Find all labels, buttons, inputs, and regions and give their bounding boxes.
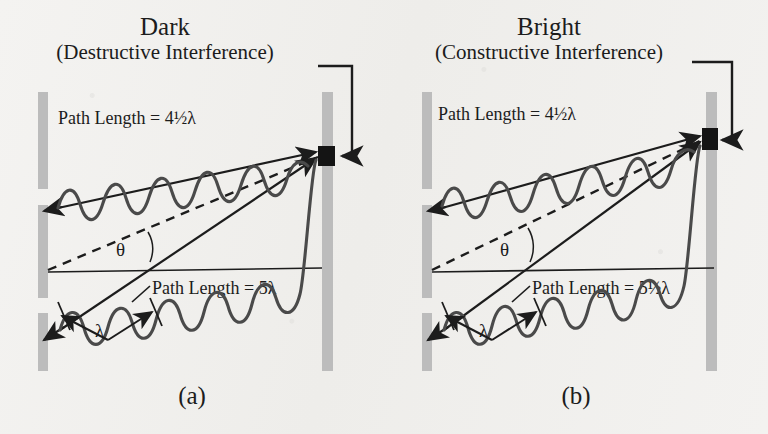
detection-point xyxy=(702,128,718,150)
panel-a-caption: (a) xyxy=(0,382,384,410)
panel-a-artwork xyxy=(0,0,384,434)
lower-wave xyxy=(60,160,316,344)
detection-screen xyxy=(322,92,333,371)
detection-point xyxy=(318,146,335,166)
barrier-segment-middle xyxy=(422,205,432,298)
barrier-segment-bottom xyxy=(38,313,48,371)
panel-a: Dark (Destructive Interference) Path Len… xyxy=(0,0,384,434)
upper-wave xyxy=(442,150,694,218)
angle-arc xyxy=(528,228,533,262)
barrier-segment-top xyxy=(38,92,48,189)
dashed-center-line xyxy=(48,157,318,270)
lower-label-leader xyxy=(132,286,150,302)
lower-label-leader xyxy=(512,286,530,302)
upper-ray xyxy=(58,152,316,208)
angle-arc xyxy=(148,232,153,262)
interference-figure: Dark (Destructive Interference) Path Len… xyxy=(0,0,768,434)
panel-b-artwork xyxy=(384,0,768,434)
barrier-segment-middle xyxy=(38,205,48,298)
horizontal-reference-axis xyxy=(48,268,322,272)
horizontal-reference-axis xyxy=(432,268,714,272)
upper-wave xyxy=(58,162,308,220)
panel-b: Bright (Constructive Interference) Path … xyxy=(384,0,768,434)
upper-ray xyxy=(442,136,700,208)
panel-b-caption: (b) xyxy=(384,382,768,410)
barrier-segment-top xyxy=(422,92,432,189)
barrier-segment-bottom xyxy=(422,313,432,371)
